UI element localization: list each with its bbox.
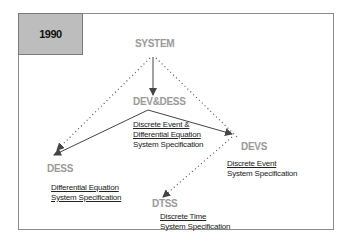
node-dess: DESS [47, 163, 73, 174]
dtss-description: Discrete Time System Specification [160, 212, 230, 232]
node-dtss: DTSS [152, 198, 177, 209]
node-devdess: DEV&DESS [133, 96, 186, 107]
devs-description: Discrete Event System Specification [227, 159, 297, 179]
node-devs: DEVS [241, 141, 267, 152]
node-system: SYSTEM [135, 38, 174, 49]
dess-description: Differential Equation System Specificati… [51, 183, 121, 203]
devdess-description: Discrete Event & Differential Equation S… [133, 120, 203, 150]
